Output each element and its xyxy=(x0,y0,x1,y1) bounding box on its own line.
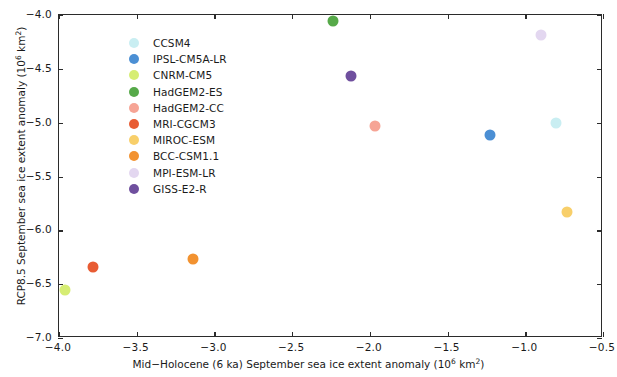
x-tick-mark-top xyxy=(292,14,293,19)
x-tick-label: −0.5 xyxy=(589,341,615,353)
legend-marker-icon xyxy=(129,87,139,97)
x-tick-mark xyxy=(370,332,371,337)
x-tick-mark xyxy=(59,332,60,337)
legend: CCSM4IPSL-CM5A-LRCNRM-CM5HadGEM2-ESHadGE… xyxy=(129,35,227,197)
data-point-miroc-esm[interactable] xyxy=(562,207,573,218)
legend-item-label: MPI-ESM-LR xyxy=(153,167,216,179)
legend-item-mpi-esm-lr[interactable]: MPI-ESM-LR xyxy=(129,165,227,181)
x-tick-mark-top xyxy=(214,14,215,19)
x-tick-mark-top xyxy=(448,14,449,19)
y-tick-mark-right xyxy=(597,123,602,124)
data-point-hadgem2-cc[interactable] xyxy=(369,120,380,131)
x-tick-mark xyxy=(448,332,449,337)
x-tick-label: −3.5 xyxy=(123,341,149,353)
legend-item-hadgem2-es[interactable]: HadGEM2-ES xyxy=(129,84,227,100)
legend-marker-icon xyxy=(129,38,139,48)
x-tick-mark xyxy=(292,332,293,337)
y-tick-mark-right xyxy=(597,177,602,178)
legend-item-label: MRI-CGCM3 xyxy=(153,118,216,130)
y-tick-mark xyxy=(58,177,63,178)
x-tick-mark xyxy=(137,332,138,337)
y-tick-mark-right xyxy=(597,284,602,285)
x-axis-label: Mid−Holocene (6 ka) September sea ice ex… xyxy=(0,358,617,370)
legend-item-label: CNRM-CM5 xyxy=(153,69,212,81)
data-point-hadgem2-es[interactable] xyxy=(327,16,338,27)
x-tick-label: −3.0 xyxy=(200,341,226,353)
y-tick-mark-right xyxy=(597,69,602,70)
legend-item-bcc-csm1-1[interactable]: BCC-CSM1.1 xyxy=(129,148,227,164)
scatter-plot-figure: RCP8.5 September sea ice extent anomaly … xyxy=(0,0,617,377)
y-tick-mark-right xyxy=(597,230,602,231)
legend-marker-icon xyxy=(129,70,139,80)
legend-marker-icon xyxy=(129,119,139,129)
legend-item-label: GISS-E2-R xyxy=(153,183,207,195)
legend-item-cnrm-cm5[interactable]: CNRM-CM5 xyxy=(129,67,227,83)
legend-item-ipsl-cm5a-lr[interactable]: IPSL-CM5A-LR xyxy=(129,51,227,67)
x-tick-label: −2.5 xyxy=(278,341,304,353)
legend-item-label: CCSM4 xyxy=(153,37,191,49)
y-tick-mark xyxy=(58,230,63,231)
legend-item-label: HadGEM2-ES xyxy=(153,86,223,98)
y-tick-mark xyxy=(58,123,63,124)
x-tick-mark-top xyxy=(370,14,371,19)
y-tick-mark xyxy=(58,69,63,70)
data-point-bcc-csm1-1[interactable] xyxy=(187,254,198,265)
data-point-mpi-esm-lr[interactable] xyxy=(535,30,546,41)
legend-item-label: IPSL-CM5A-LR xyxy=(153,53,227,65)
legend-item-mri-cgcm3[interactable]: MRI-CGCM3 xyxy=(129,116,227,132)
legend-marker-icon xyxy=(129,54,139,64)
x-tick-label: −1.5 xyxy=(433,341,459,353)
data-point-mri-cgcm3[interactable] xyxy=(88,261,99,272)
x-tick-label: −1.0 xyxy=(511,341,537,353)
legend-marker-icon xyxy=(129,151,139,161)
legend-item-hadgem2-cc[interactable]: HadGEM2-CC xyxy=(129,100,227,116)
x-tick-mark-top xyxy=(525,14,526,19)
x-tick-mark xyxy=(214,332,215,337)
legend-item-label: MIROC-ESM xyxy=(153,134,215,146)
x-tick-mark-top xyxy=(137,14,138,19)
data-point-ipsl-cm5a-lr[interactable] xyxy=(484,129,495,140)
legend-item-label: BCC-CSM1.1 xyxy=(153,150,219,162)
x-tick-mark xyxy=(603,332,604,337)
y-tick-mark-right xyxy=(597,15,602,16)
legend-item-ccsm4[interactable]: CCSM4 xyxy=(129,35,227,51)
data-point-ccsm4[interactable] xyxy=(551,117,562,128)
legend-item-miroc-esm[interactable]: MIROC-ESM xyxy=(129,132,227,148)
data-point-giss-e2-r[interactable] xyxy=(346,71,357,82)
legend-marker-icon xyxy=(129,135,139,145)
x-tick-label: −2.0 xyxy=(356,341,382,353)
x-tick-mark-top xyxy=(603,14,604,19)
x-tick-mark xyxy=(525,332,526,337)
legend-item-giss-e2-r[interactable]: GISS-E2-R xyxy=(129,181,227,197)
y-tick-mark-right xyxy=(597,338,602,339)
legend-marker-icon xyxy=(129,168,139,178)
y-tick-mark xyxy=(58,338,63,339)
legend-item-label: HadGEM2-CC xyxy=(153,102,224,114)
data-point-cnrm-cm5[interactable] xyxy=(60,284,71,295)
y-tick-mark xyxy=(58,15,63,16)
legend-marker-icon xyxy=(129,103,139,113)
plot-area: CCSM4IPSL-CM5A-LRCNRM-CM5HadGEM2-ESHadGE… xyxy=(58,14,602,337)
legend-marker-icon xyxy=(129,184,139,194)
